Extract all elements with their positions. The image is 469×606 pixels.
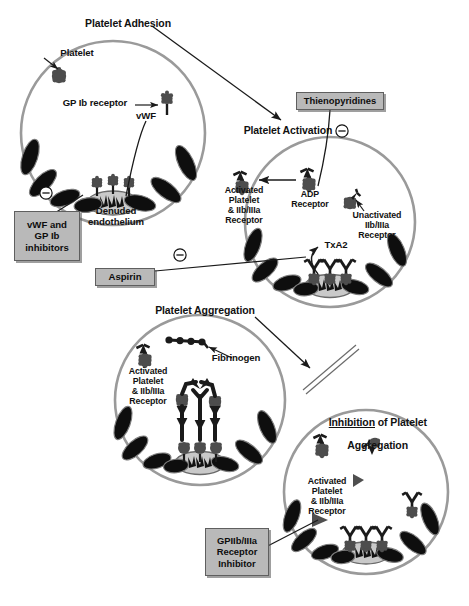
label-activated-platelet-4: Activated Platelet & IIb/IIIa Receptor [296, 477, 358, 516]
label-unactivated-receptor: Unactivated IIb/IIIa Receptor [340, 211, 414, 241]
blocked-slash [303, 345, 359, 394]
label-gp-ib-receptor: GP Ib receptor [53, 98, 137, 109]
drug-box-vwf-gpib-inhibitors[interactable]: vWF and GP Ib inhibitors [14, 211, 80, 261]
heading-inhibition-underlined: Inhibition [329, 416, 375, 428]
drug-box-gpiibiiia-receptor-inhibitor[interactable]: GPIIb/IIIa Receptor Inhibitor [205, 528, 269, 576]
label-adp-receptor: ADP Receptor [284, 190, 336, 210]
diagram-graphics [0, 0, 469, 606]
heading-platelet-activation: Platelet Activation [236, 125, 340, 137]
heading-platelet-aggregation: Platelet Aggregation [144, 305, 266, 317]
heading-inhibition: Inhibition of Platelet Aggregation [305, 405, 445, 452]
figure-canvas: Platelet Adhesion Platelet GP Ib recepto… [0, 0, 469, 606]
heading-inhibition-line2: Aggregation [347, 439, 408, 451]
label-fibrinogen: Fibrinogen [205, 353, 267, 364]
heading-platelet-adhesion: Platelet Adhesion [64, 18, 192, 30]
label-activated-platelet-3: Activated Platelet & IIb/IIIa Receptor [117, 367, 179, 406]
label-platelet: Platelet [45, 48, 109, 59]
label-activated-platelet-2: Activated Platelet & IIb/IIIa Receptor [213, 186, 275, 225]
drug-box-thienopyridines[interactable]: Thienopyridines [296, 92, 384, 110]
wall-bound-receptors [178, 442, 222, 462]
heading-inhibition-rest: of Platelet [375, 416, 427, 428]
label-txa2: TxA2 [316, 240, 356, 251]
drug-box-aspirin[interactable]: Aspirin [95, 268, 155, 286]
label-denuded-endothelium: Denuded endothelium [75, 206, 157, 227]
label-vwf: vWF [128, 111, 164, 122]
